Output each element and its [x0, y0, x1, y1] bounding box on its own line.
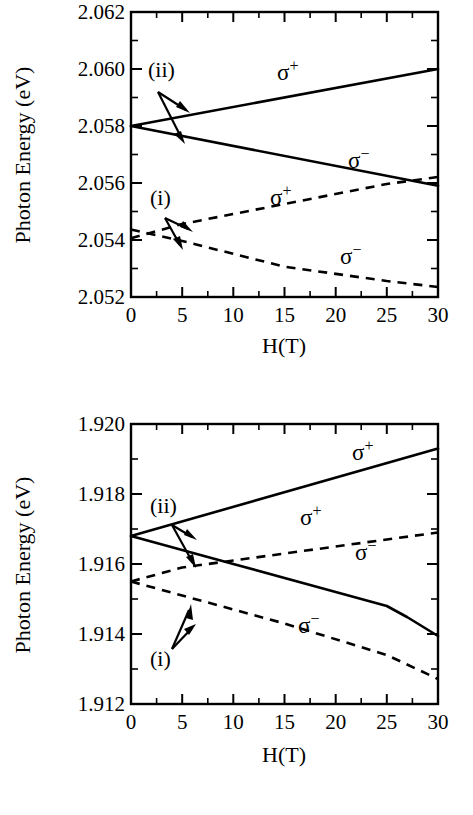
- bottom-xtick-label-4: 20: [325, 710, 346, 734]
- bottom-curve-ii-sigma-minus: [131, 536, 438, 636]
- top-label-ii-sigma-plus: σ+: [277, 57, 298, 85]
- top-annotation-i: (i): [150, 185, 171, 210]
- top-label-ii-sigma-minus: σ−: [348, 145, 369, 173]
- figure-container: Photon Energy (eV) 2.062 2.060 2.058 2.0…: [0, 0, 473, 815]
- top-xtick-label-5: 25: [376, 303, 397, 327]
- bottom-ytick-label-2: 1.916: [78, 552, 125, 576]
- bottom-xtick-label-6: 30: [428, 710, 449, 734]
- bottom-curve-ii-sigma-plus: [131, 449, 438, 537]
- bottom-plot-frame: [131, 424, 438, 704]
- top-xtick-label-6: 30: [428, 303, 449, 327]
- bottom-xtick-label-5: 25: [376, 710, 397, 734]
- top-annotation-ii: (ii): [148, 57, 175, 82]
- bottom-label-ii-sigma-plus: σ+: [352, 437, 373, 465]
- bottom-xtick-label-1: 5: [177, 710, 188, 734]
- chart-panel-bottom: Photon Energy (eV) 1.920 1.918 1.916 1.9…: [0, 405, 473, 815]
- bottom-x-axis-title: H(T): [262, 742, 306, 767]
- bottom-label-ii-sigma-minus: σ−: [355, 537, 376, 565]
- top-ytick-label-0: 2.062: [78, 0, 125, 24]
- bottom-annotation-i-arrows: [172, 604, 196, 649]
- top-ytick-label-2: 2.058: [78, 114, 125, 138]
- bottom-label-i-sigma-plus: σ+: [300, 502, 321, 530]
- top-ytick-label-4: 2.054: [78, 228, 126, 252]
- bottom-xtick-label-2: 10: [223, 710, 244, 734]
- bottom-ytick-label-4: 1.912: [78, 692, 125, 716]
- top-xtick-label-3: 15: [274, 303, 295, 327]
- bottom-panel-svg: Photon Energy (eV) 1.920 1.918 1.916 1.9…: [0, 405, 473, 815]
- top-x-axis-title: H(T): [262, 333, 306, 358]
- chart-panel-top: Photon Energy (eV) 2.062 2.060 2.058 2.0…: [0, 0, 473, 370]
- top-ytick-label-1: 2.060: [78, 57, 125, 81]
- top-xtick-label-0: 0: [126, 303, 137, 327]
- top-ytick-label-3: 2.056: [78, 171, 125, 195]
- bottom-annotation-ii-arrows: [172, 525, 197, 568]
- top-xtick-label-1: 5: [177, 303, 188, 327]
- bottom-curve-i-sigma-minus: [131, 582, 438, 680]
- top-y-axis-title: Photon Energy (eV): [10, 67, 35, 244]
- bottom-xtick-label-3: 15: [274, 710, 295, 734]
- bottom-y-axis-title: Photon Energy (eV): [10, 477, 35, 654]
- top-plot-frame: [131, 12, 438, 297]
- top-annotation-i-arrows: [165, 218, 193, 250]
- bottom-curve-i-sigma-plus: [131, 533, 438, 582]
- top-ytick-label-5: 2.052: [78, 285, 125, 309]
- bottom-ytick-label-1: 1.918: [78, 482, 125, 506]
- top-label-i-sigma-minus: σ−: [340, 241, 361, 269]
- top-xtick-label-2: 10: [223, 303, 244, 327]
- bottom-ytick-label-3: 1.914: [78, 622, 126, 646]
- bottom-xtick-label-0: 0: [126, 710, 137, 734]
- bottom-annotation-ii: (ii): [150, 493, 177, 518]
- bottom-annotation-i: (i): [150, 646, 171, 671]
- top-label-i-sigma-plus: σ+: [270, 182, 291, 210]
- top-xtick-label-4: 20: [325, 303, 346, 327]
- bottom-ytick-label-0: 1.920: [78, 412, 125, 436]
- top-panel-svg: Photon Energy (eV) 2.062 2.060 2.058 2.0…: [0, 0, 473, 370]
